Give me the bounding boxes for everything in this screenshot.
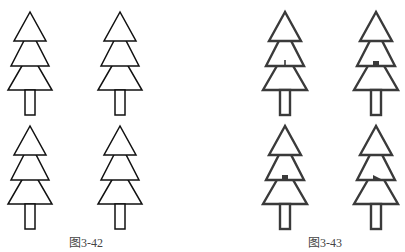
tree-trunk [280, 90, 290, 115]
tree-tier-top [14, 12, 46, 41]
figure-3-43 [263, 12, 398, 229]
tree-tier-top [269, 126, 301, 155]
tree-tier-top [104, 12, 136, 41]
notch-mark [282, 175, 288, 180]
tree-trunk [25, 204, 35, 229]
tree-tier-top [104, 126, 136, 155]
tree-tier-top [14, 126, 46, 155]
tree-trunk [115, 204, 125, 229]
tree-tier-top [360, 12, 392, 41]
tree-trunk [371, 90, 381, 115]
tree-trunk [371, 204, 381, 229]
pine-tree-icon [98, 126, 142, 229]
tree-trunk [25, 90, 35, 115]
tree-tier-top [360, 126, 392, 155]
tree-trunk [280, 204, 290, 229]
tree-tier-top [269, 12, 301, 41]
pine-tree-icon [8, 12, 52, 115]
figure-3-42 [8, 12, 142, 229]
caption-figure-3-43: 图3-43 [308, 233, 342, 251]
notch-mark [373, 61, 379, 66]
pine-tree-icon [98, 12, 142, 115]
figure-canvas [0, 0, 405, 252]
tree-trunk [115, 90, 125, 115]
caption-figure-3-42: 图3-42 [69, 233, 103, 251]
pine-tree-icon [8, 126, 52, 229]
